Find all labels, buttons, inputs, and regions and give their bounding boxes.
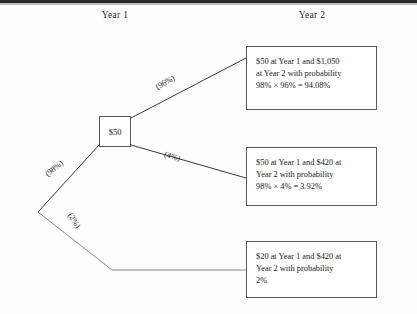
outcome-1-line-3: 98% × 96% = 94.08%	[256, 80, 376, 92]
outcome-3-line-3: 2%	[256, 275, 376, 287]
outcome-box-1: $50 at Year 1 and $1,050 at Year 2 with …	[246, 46, 377, 110]
outcome-2-line-2: Year 2 with probability	[256, 169, 376, 181]
branch-98	[38, 145, 99, 212]
outcome-1-line-1: $50 at Year 1 and $1,050	[256, 56, 376, 68]
branch-4	[131, 145, 246, 178]
outcome-2-line-3: 98% × 4% = 3.92%	[256, 181, 376, 193]
branch-96	[131, 58, 246, 118]
outcome-box-3: $20 at Year 1 and $420 at Year 2 with pr…	[246, 241, 377, 298]
outcome-box-2: $50 at Year 1 and $420 at Year 2 with pr…	[246, 147, 377, 206]
year1-node-label: $50	[109, 127, 122, 137]
outcome-3-line-2: Year 2 with probability	[256, 263, 376, 275]
outcome-2-line-1: $50 at Year 1 and $420 at	[256, 157, 376, 169]
diagram-canvas: Year 1 Year 2 (98%) (96%) (4%) (2%) $50 …	[0, 0, 417, 314]
outcome-3-line-1: $20 at Year 1 and $420 at	[256, 251, 376, 263]
year1-node-50: $50	[99, 116, 131, 147]
outcome-1-line-2: at Year 2 with probability	[256, 68, 376, 80]
